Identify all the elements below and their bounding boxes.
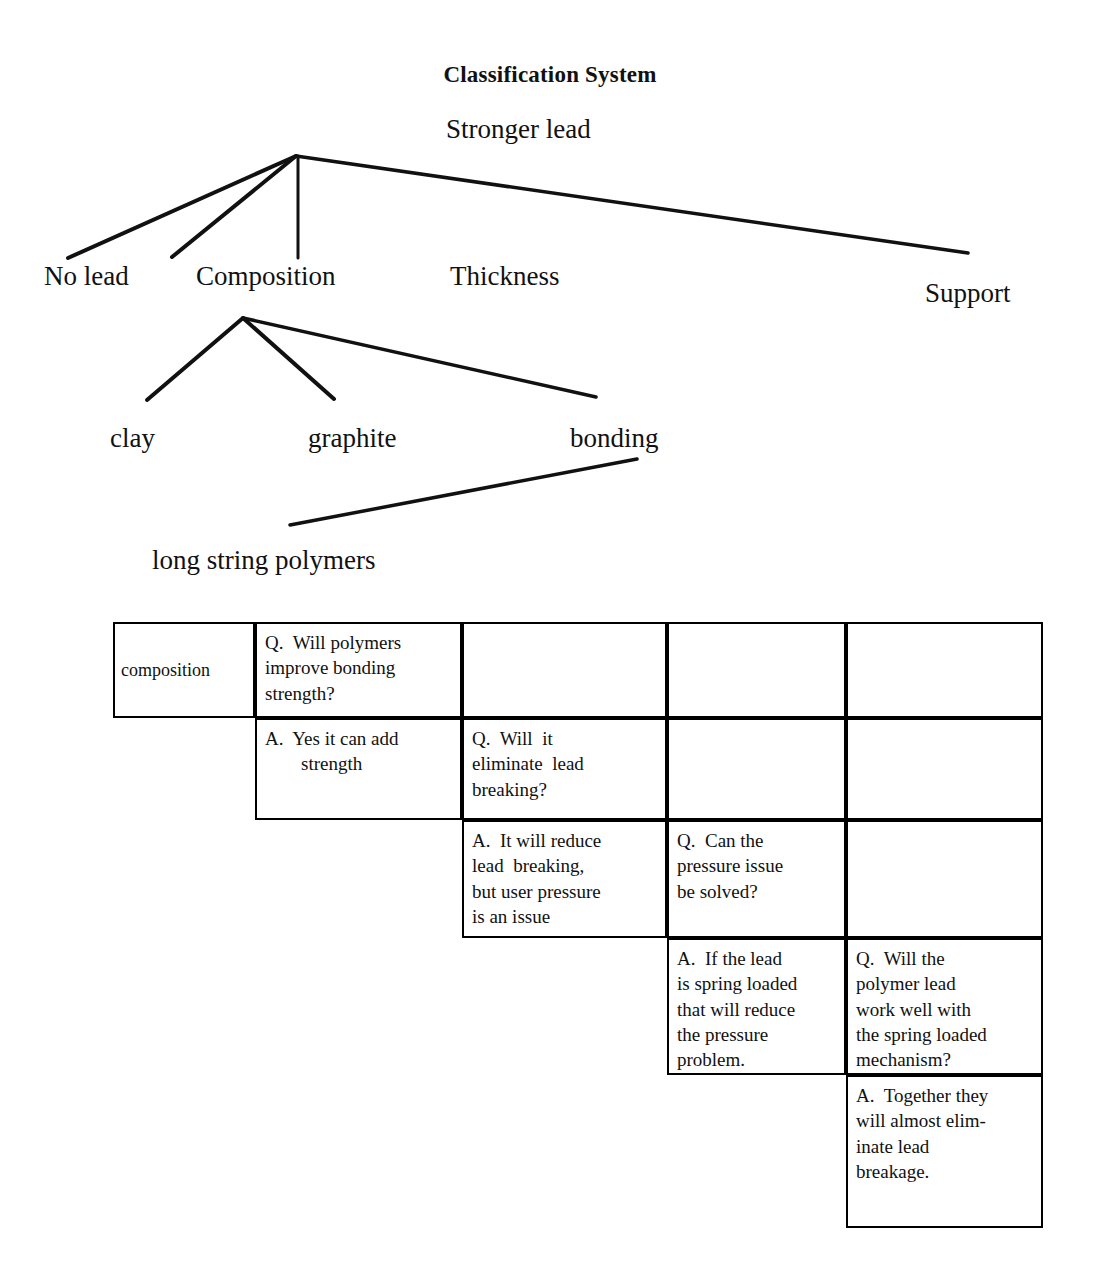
- qa-cell-empty-r3c5: [846, 820, 1043, 938]
- qa-cell-a4: A. Together theywill almost elim-inate l…: [846, 1075, 1043, 1228]
- edge-composition-to-graphite: [243, 318, 334, 399]
- qa-cell-line: is an issue: [472, 904, 658, 929]
- qa-cell-empty-r1c5: [846, 622, 1043, 718]
- qa-cell-line: Q. Will the: [856, 946, 1034, 971]
- qa-cell-line: strength?: [265, 681, 453, 706]
- qa-cell-line: polymer lead: [856, 971, 1034, 996]
- qa-cell-line: A. Together they: [856, 1083, 1034, 1108]
- qa-cell-line: the pressure: [677, 1022, 837, 1047]
- qa-row-label-text: composition: [121, 659, 210, 683]
- tree-node-clay: clay: [110, 425, 155, 452]
- qa-cell-line: eliminate lead: [472, 751, 658, 776]
- qa-cell-q1: Q. Will polymersimprove bondingstrength?: [255, 622, 462, 718]
- tree-node-graphite: graphite: [308, 425, 396, 452]
- qa-cell-line: mechanism?: [856, 1047, 1034, 1072]
- edge-composition-to-bonding: [243, 318, 596, 397]
- qa-cell-line: improve bonding: [265, 655, 453, 680]
- qa-cell-line: lead breaking,: [472, 853, 658, 878]
- qa-cell-line: pressure issue: [677, 853, 837, 878]
- qa-cell-a1: A. Yes it can addstrength: [255, 718, 462, 820]
- qa-cell-empty-r1c3: [462, 622, 667, 718]
- tree-node-thickness: Thickness: [450, 263, 559, 290]
- qa-cell-line: Q. Can the: [677, 828, 837, 853]
- qa-cell-line: breaking?: [472, 777, 658, 802]
- tree-node-composition: Composition: [196, 263, 336, 290]
- qa-cell-line: is spring loaded: [677, 971, 837, 996]
- qa-staircase-table: compositionQ. Will polymersimprove bondi…: [113, 622, 1043, 1228]
- qa-cell-empty-r1c4: [667, 622, 846, 718]
- tree-node-long-string-polymers: long string polymers: [152, 547, 376, 574]
- qa-cell-a2: A. It will reducelead breaking,but user …: [462, 820, 667, 938]
- qa-cell-line: inate lead: [856, 1134, 1034, 1159]
- qa-cell-q4: Q. Will thepolymer leadwork well withthe…: [846, 938, 1043, 1075]
- tree-node-stronger-lead: Stronger lead: [446, 116, 591, 143]
- document-page: Classification System Stronger lead No l…: [0, 0, 1100, 1266]
- tree-node-no-lead: No lead: [44, 263, 129, 290]
- qa-cell-line: but user pressure: [472, 879, 658, 904]
- edge-root-to-composition: [172, 156, 296, 257]
- qa-cell-q2: Q. Will iteliminate leadbreaking?: [462, 718, 667, 820]
- qa-cell-empty-r2c5: [846, 718, 1043, 820]
- qa-cell-line: Q. Will it: [472, 726, 658, 751]
- qa-cell-line: problem.: [677, 1047, 837, 1072]
- qa-cell-line: work well with: [856, 997, 1034, 1022]
- tree-node-bonding: bonding: [570, 425, 659, 452]
- qa-cell-a3: A. If the leadis spring loadedthat will …: [667, 938, 846, 1075]
- qa-cell-line: the spring loaded: [856, 1022, 1034, 1047]
- qa-cell-q3: Q. Can thepressure issuebe solved?: [667, 820, 846, 938]
- qa-row-label-composition: composition: [113, 622, 255, 718]
- qa-cell-line: Q. Will polymers: [265, 630, 453, 655]
- edge-root-to-no-lead: [68, 156, 296, 258]
- qa-cell-line: A. It will reduce: [472, 828, 658, 853]
- edge-composition-to-clay: [147, 318, 243, 400]
- qa-cell-line: that will reduce: [677, 997, 837, 1022]
- edge-bonding-to-polymers: [290, 459, 637, 525]
- edge-root-to-support: [296, 156, 968, 253]
- qa-cell-line: A. If the lead: [677, 946, 837, 971]
- qa-cell-line: be solved?: [677, 879, 837, 904]
- qa-cell-empty-r2c4: [667, 718, 846, 820]
- qa-cell-line: breakage.: [856, 1159, 1034, 1184]
- qa-cell-line: strength: [265, 751, 453, 776]
- qa-cell-line: A. Yes it can add: [265, 726, 453, 751]
- tree-node-support: Support: [925, 280, 1011, 307]
- qa-cell-line: will almost elim-: [856, 1108, 1034, 1133]
- tree-connector-lines: [0, 0, 1100, 620]
